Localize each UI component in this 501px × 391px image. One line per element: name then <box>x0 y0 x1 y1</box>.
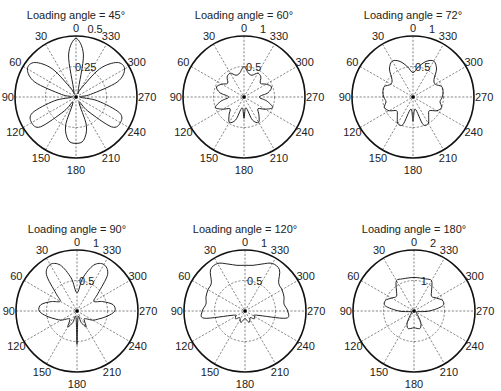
angle-tick-label: 300 <box>296 270 314 282</box>
angle-tick-label: 120 <box>175 340 193 352</box>
angle-tick-label: 0 <box>73 22 79 34</box>
angle-tick-label: 30 <box>204 244 216 256</box>
center-dot <box>243 309 247 313</box>
angle-tick-label: 330 <box>270 30 288 42</box>
angle-tick-label: 300 <box>465 270 483 282</box>
angle-tick-label: 180 <box>235 164 253 176</box>
center-dot <box>411 95 415 99</box>
angle-tick-label: 0 <box>410 22 416 34</box>
angle-tick-label: 300 <box>295 56 313 68</box>
polar-plot-4: Loading angle = 120°0.510306090120150180… <box>171 223 326 390</box>
angle-tick-label: 210 <box>271 366 289 378</box>
outer-radius-label: 1 <box>429 23 435 35</box>
polar-plot-5: Loading angle = 180°12030609012015018021… <box>340 223 495 390</box>
angle-tick-label: 90 <box>170 91 182 103</box>
outer-radius-label: 1 <box>260 23 266 35</box>
angle-tick-label: 330 <box>440 244 458 256</box>
angle-tick-label: 90 <box>2 91 14 103</box>
angle-tick-label: 180 <box>405 378 423 390</box>
angle-tick-label: 300 <box>464 56 482 68</box>
angle-tick-label: 240 <box>128 340 146 352</box>
angle-tick-label: 120 <box>7 340 25 352</box>
plot-title: Loading angle = 120° <box>193 223 297 235</box>
angle-tick-label: 270 <box>138 91 156 103</box>
angle-tick-label: 30 <box>35 30 47 42</box>
angle-tick-label: 30 <box>373 244 385 256</box>
angle-tick-label: 180 <box>404 164 422 176</box>
angle-tick-label: 300 <box>127 56 145 68</box>
polar-plots-figure: Loading angle = 45°0.250.503060901201501… <box>0 0 501 391</box>
angle-tick-label: 240 <box>296 340 314 352</box>
plot-title: Loading angle = 60° <box>195 9 293 21</box>
plot-title: Loading angle = 90° <box>28 223 126 235</box>
angle-tick-label: 330 <box>102 30 120 42</box>
angle-tick-label: 120 <box>344 340 362 352</box>
angle-tick-label: 0 <box>241 22 247 34</box>
angle-tick-label: 240 <box>464 126 482 138</box>
angle-tick-label: 90 <box>339 91 351 103</box>
angle-tick-label: 60 <box>10 270 22 282</box>
polar-plot-3: Loading angle = 90°0.5103060901201501802… <box>3 223 158 390</box>
angle-tick-label: 150 <box>33 366 51 378</box>
ring-label: 0.25 <box>75 61 96 73</box>
center-dot <box>412 309 416 313</box>
angle-tick-label: 120 <box>174 126 192 138</box>
angle-tick-label: 30 <box>36 244 48 256</box>
plot-title: Loading angle = 72° <box>364 9 462 21</box>
angle-tick-label: 30 <box>203 30 215 42</box>
polar-plot-1: Loading angle = 60°0.5103060901201501802… <box>170 9 325 176</box>
angle-tick-label: 60 <box>177 56 189 68</box>
angle-tick-label: 210 <box>102 152 120 164</box>
plot-title: Loading angle = 180° <box>362 223 466 235</box>
angle-tick-label: 150 <box>369 152 387 164</box>
angle-tick-label: 30 <box>372 30 384 42</box>
plot-title: Loading angle = 45° <box>27 9 125 21</box>
angle-tick-label: 330 <box>103 244 121 256</box>
ring-label: 0.5 <box>246 61 261 73</box>
angle-tick-label: 60 <box>178 270 190 282</box>
angle-tick-label: 270 <box>307 305 325 317</box>
polar-plot-2: Loading angle = 72°0.5103060901201501802… <box>339 9 494 176</box>
angle-tick-label: 210 <box>103 366 121 378</box>
angle-tick-label: 180 <box>68 378 86 390</box>
angle-tick-label: 60 <box>9 56 21 68</box>
angle-tick-label: 330 <box>271 244 289 256</box>
angle-tick-label: 270 <box>306 91 324 103</box>
angle-tick-label: 90 <box>171 305 183 317</box>
angle-tick-label: 210 <box>270 152 288 164</box>
ring-label: 1 <box>421 275 427 287</box>
outer-radius-label: 1 <box>93 237 99 249</box>
angle-tick-label: 0 <box>411 236 417 248</box>
angle-tick-label: 300 <box>128 270 146 282</box>
angle-tick-label: 270 <box>475 91 493 103</box>
angle-tick-label: 330 <box>439 30 457 42</box>
outer-radius-label: 1 <box>261 237 267 249</box>
angle-tick-label: 0 <box>74 236 80 248</box>
angle-tick-label: 150 <box>370 366 388 378</box>
outer-radius-label: 0.5 <box>87 23 102 35</box>
angle-tick-label: 240 <box>465 340 483 352</box>
center-dot <box>74 95 78 99</box>
angle-tick-label: 90 <box>340 305 352 317</box>
angle-tick-label: 270 <box>476 305 494 317</box>
angle-tick-label: 150 <box>201 366 219 378</box>
polar-plot-0: Loading angle = 45°0.250.503060901201501… <box>2 9 157 176</box>
angle-tick-label: 240 <box>295 126 313 138</box>
angle-tick-label: 0 <box>242 236 248 248</box>
angle-tick-label: 150 <box>200 152 218 164</box>
angle-tick-label: 120 <box>6 126 24 138</box>
center-dot <box>75 309 79 313</box>
angle-tick-label: 240 <box>127 126 145 138</box>
center-dot <box>242 95 246 99</box>
angle-tick-label: 60 <box>346 56 358 68</box>
angle-tick-label: 180 <box>236 378 254 390</box>
angle-tick-label: 270 <box>139 305 157 317</box>
angle-tick-label: 90 <box>3 305 15 317</box>
angle-tick-label: 210 <box>439 152 457 164</box>
angle-tick-label: 120 <box>343 126 361 138</box>
angle-tick-label: 60 <box>347 270 359 282</box>
ring-label: 0.5 <box>415 61 430 73</box>
ring-label: 0.5 <box>247 275 262 287</box>
angle-tick-label: 150 <box>32 152 50 164</box>
angle-tick-label: 180 <box>67 164 85 176</box>
